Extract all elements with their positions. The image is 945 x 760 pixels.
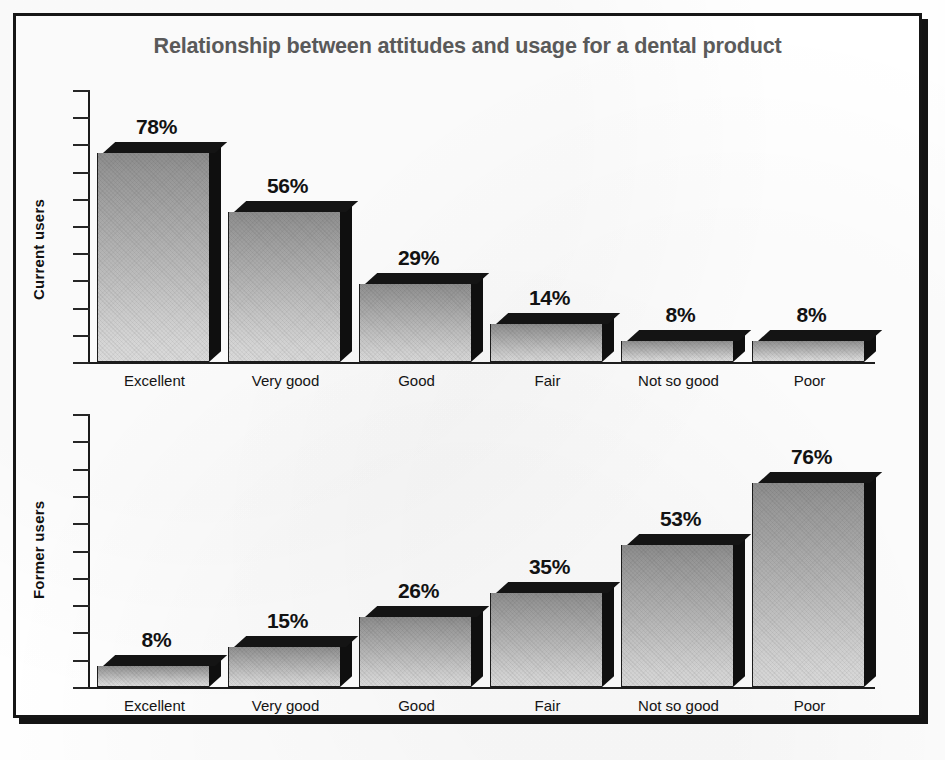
bar-poor[interactable] bbox=[752, 330, 864, 362]
bar-side-face bbox=[602, 582, 614, 687]
x-axis-category-label: Excellent bbox=[89, 372, 220, 389]
x-axis-baseline bbox=[89, 687, 875, 689]
bar-front-face bbox=[621, 341, 733, 362]
bar-value-label: 8% bbox=[756, 303, 868, 327]
bar-value-label: 14% bbox=[494, 286, 606, 310]
page-title: Relationship between attitudes and usage… bbox=[31, 33, 904, 59]
bar-side-face bbox=[471, 273, 483, 362]
x-axis-category-label: Excellent bbox=[89, 697, 220, 714]
bar-top-bevel bbox=[365, 273, 489, 284]
y-axis-tick bbox=[73, 523, 90, 525]
y-axis-tick bbox=[73, 469, 90, 471]
bar-front-face bbox=[621, 545, 733, 687]
y-axis-title-former-users: Former users bbox=[30, 480, 52, 620]
bar-very-good[interactable] bbox=[228, 201, 340, 362]
y-axis-tick bbox=[73, 605, 90, 607]
bar-not-so-good[interactable] bbox=[621, 534, 733, 687]
bar-poor[interactable] bbox=[752, 472, 864, 687]
bar-value-label: 29% bbox=[363, 246, 475, 270]
bar-fair[interactable] bbox=[490, 582, 602, 687]
y-axis-tick bbox=[73, 441, 90, 443]
x-axis-category-label: Good bbox=[351, 697, 482, 714]
bar-top-bevel bbox=[496, 582, 620, 593]
bar-front-face bbox=[97, 153, 209, 362]
bar-front-face bbox=[752, 483, 864, 687]
x-axis-category-label: Not so good bbox=[613, 372, 744, 389]
x-axis-baseline bbox=[89, 362, 875, 364]
scanned-page: Relationship between attitudes and usage… bbox=[0, 0, 945, 760]
bar-excellent[interactable] bbox=[97, 142, 209, 362]
y-axis-tick bbox=[73, 90, 90, 92]
y-axis-tick bbox=[73, 660, 90, 662]
x-axis-category-label: Very good bbox=[220, 372, 351, 389]
bar-value-label: 53% bbox=[625, 507, 737, 531]
bar-top-bevel bbox=[365, 606, 489, 617]
x-axis-category-label: Good bbox=[351, 372, 482, 389]
y-axis-tick bbox=[73, 253, 90, 255]
y-axis-tick bbox=[73, 226, 90, 228]
bar-top-bevel bbox=[627, 330, 751, 341]
bar-good[interactable] bbox=[359, 606, 471, 687]
bar-excellent[interactable] bbox=[97, 655, 209, 687]
bar-top-bevel bbox=[627, 534, 751, 545]
bar-side-face bbox=[471, 607, 483, 687]
bar-front-face bbox=[490, 324, 602, 362]
bar-value-label: 35% bbox=[494, 555, 606, 579]
y-axis-tick bbox=[73, 144, 90, 146]
bar-value-label: 76% bbox=[756, 445, 868, 469]
bar-side-face bbox=[733, 534, 745, 687]
bar-front-face bbox=[228, 647, 340, 687]
y-axis-tick bbox=[73, 551, 90, 553]
bar-value-label: 8% bbox=[101, 628, 213, 652]
bar-side-face bbox=[340, 201, 352, 362]
bar-value-label: 56% bbox=[232, 174, 344, 198]
x-axis-category-label: Fair bbox=[482, 697, 613, 714]
bar-good[interactable] bbox=[359, 273, 471, 362]
x-axis-category-label: Fair bbox=[482, 372, 613, 389]
bar-front-face bbox=[490, 593, 602, 687]
bar-side-face bbox=[864, 473, 876, 687]
bar-top-bevel bbox=[758, 330, 882, 341]
y-axis-tick bbox=[73, 578, 90, 580]
y-axis-tick bbox=[73, 632, 90, 634]
bar-top-bevel bbox=[234, 201, 358, 212]
bar-front-face bbox=[228, 212, 340, 362]
bar-front-face bbox=[359, 284, 471, 362]
x-axis-category-label: Very good bbox=[220, 697, 351, 714]
y-axis-tick bbox=[73, 308, 90, 310]
bar-value-label: 8% bbox=[625, 303, 737, 327]
bar-front-face bbox=[359, 617, 471, 687]
bar-side-face bbox=[209, 142, 221, 362]
y-axis-tick bbox=[73, 172, 90, 174]
bar-front-face bbox=[97, 666, 209, 687]
y-axis-tick bbox=[73, 362, 90, 364]
chart-panel-former-users: Former users 8%Excellent15%Very good26%G… bbox=[0, 408, 945, 728]
y-axis-tick bbox=[73, 687, 90, 689]
bar-value-label: 15% bbox=[232, 609, 344, 633]
bar-not-so-good[interactable] bbox=[621, 330, 733, 362]
y-axis-title-current-users: Current users bbox=[30, 180, 52, 320]
bar-top-bevel bbox=[496, 313, 620, 324]
y-axis-tick bbox=[73, 117, 90, 119]
y-axis-tick bbox=[73, 335, 90, 337]
x-axis-category-label: Poor bbox=[744, 697, 875, 714]
y-axis-tick bbox=[73, 280, 90, 282]
chart-panel-current-users: Current users 78%Excellent56%Very good29… bbox=[0, 80, 945, 400]
y-axis-tick bbox=[73, 414, 90, 416]
bar-top-bevel bbox=[103, 142, 227, 153]
bar-top-bevel bbox=[234, 636, 358, 647]
bar-value-label: 26% bbox=[363, 579, 475, 603]
x-axis-category-label: Poor bbox=[744, 372, 875, 389]
bar-very-good[interactable] bbox=[228, 636, 340, 687]
bar-fair[interactable] bbox=[490, 313, 602, 362]
bar-front-face bbox=[752, 341, 864, 362]
y-axis-tick bbox=[73, 199, 90, 201]
y-axis-tick bbox=[73, 496, 90, 498]
bar-top-bevel bbox=[758, 472, 882, 483]
x-axis-category-label: Not so good bbox=[613, 697, 744, 714]
bar-value-label: 78% bbox=[101, 115, 213, 139]
bar-top-bevel bbox=[103, 655, 227, 666]
